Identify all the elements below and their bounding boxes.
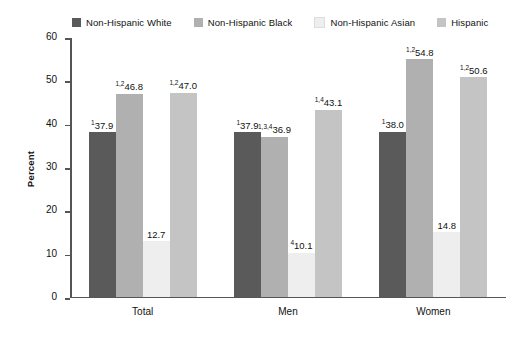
y-tick-label: 60 [35, 31, 57, 42]
bar-women-0[interactable]: 138.0 [379, 132, 406, 297]
bar-women-2[interactable]: 14.8 [433, 232, 460, 296]
y-tick-label: 40 [35, 118, 57, 129]
bar-men-3[interactable]: 1,443.1 [315, 110, 342, 297]
bar-value-label: 1,246.8 [115, 82, 143, 92]
legend-item-label: Non-Hispanic Asian [330, 17, 415, 28]
y-tick-label: 30 [35, 161, 57, 172]
bar-slot: 1,247.0 [170, 39, 197, 297]
bar-men-0[interactable]: 137.9 [234, 132, 261, 296]
legend-item-2[interactable]: Non-Hispanic Asian [314, 17, 415, 28]
bar-women-1[interactable]: 1,254.8 [406, 59, 433, 296]
bar-value-label: 138.0 [382, 120, 404, 130]
y-tick-label: 50 [35, 74, 57, 85]
bar-value-label: 1,254.8 [406, 48, 434, 58]
bar-slot: 138.0 [379, 39, 406, 297]
y-tick-label: 0 [35, 291, 57, 302]
bar-chart: Non-Hispanic WhiteNon-Hispanic BlackNon-… [0, 0, 529, 337]
bar-total-2[interactable]: 12.7 [143, 241, 170, 296]
plot-area: 6050403020100 137.91,246.812.71,247.0Tot… [70, 38, 506, 298]
bar-value-label: 410.1 [290, 241, 312, 251]
y-axis-title: Percent [25, 150, 36, 186]
legend-item-label: Non-Hispanic White [86, 17, 172, 28]
bar-groups: 137.91,246.812.71,247.0Total137.91,3,436… [70, 39, 506, 297]
legend-swatch-icon [437, 18, 446, 27]
bar-slot: 137.9 [89, 39, 116, 297]
bar-value-label: 1,443.1 [315, 98, 343, 108]
x-axis-label-total: Total [70, 306, 215, 317]
bar-men-2[interactable]: 410.1 [288, 253, 315, 297]
legend-item-1[interactable]: Non-Hispanic Black [194, 17, 293, 28]
bar-group-total: 137.91,246.812.71,247.0Total [70, 39, 215, 297]
bar-total-3[interactable]: 1,247.0 [170, 93, 197, 297]
bar-total-1[interactable]: 1,246.8 [116, 94, 143, 297]
legend-swatch-icon [72, 18, 81, 27]
legend-item-0[interactable]: Non-Hispanic White [72, 17, 172, 28]
bar-slot: 1,254.8 [406, 39, 433, 297]
bar-slot: 1,246.8 [116, 39, 143, 297]
bar-slot: 1,3,436.9 [261, 39, 288, 297]
bar-slot: 12.7 [143, 39, 170, 297]
legend-item-label: Hispanic [451, 17, 488, 28]
y-tick-label: 10 [35, 248, 57, 259]
y-tick-label: 20 [35, 204, 57, 215]
bar-slot: 14.8 [433, 39, 460, 297]
bar-value-label: 1,247.0 [169, 81, 197, 91]
bar-value-label: 1,3,436.9 [258, 125, 291, 135]
x-axis-label-women: Women [361, 306, 506, 317]
chart-legend: Non-Hispanic WhiteNon-Hispanic BlackNon-… [72, 17, 510, 28]
bar-group-men: 137.91,3,436.9410.11,443.1Men [215, 39, 360, 297]
bar-total-0[interactable]: 137.9 [89, 132, 116, 296]
legend-swatch-icon [194, 18, 203, 27]
bar-value-label: 137.9 [91, 121, 113, 131]
bar-slot: 1,250.6 [460, 39, 487, 297]
x-axis-line [70, 297, 506, 299]
bar-slot: 137.9 [234, 39, 261, 297]
legend-item-3[interactable]: Hispanic [437, 17, 488, 28]
legend-item-label: Non-Hispanic Black [208, 17, 293, 28]
bar-value-label: 137.9 [236, 121, 258, 131]
bar-group-women: 138.01,254.814.81,250.6Women [361, 39, 506, 297]
x-axis-label-men: Men [215, 306, 360, 317]
bar-value-label: 1,250.6 [460, 66, 488, 76]
bar-slot: 410.1 [288, 39, 315, 297]
bar-value-label: 14.8 [438, 221, 457, 231]
bar-women-3[interactable]: 1,250.6 [460, 77, 487, 296]
bar-value-label: 12.7 [147, 230, 166, 240]
legend-swatch-icon [314, 17, 325, 28]
bar-men-1[interactable]: 1,3,436.9 [261, 137, 288, 297]
bar-slot: 1,443.1 [315, 39, 342, 297]
y-tick-0: 0 [65, 298, 70, 300]
